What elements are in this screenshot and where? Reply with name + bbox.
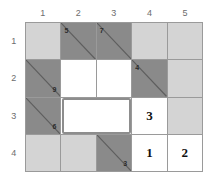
cell-r1-c3[interactable]: 7 xyxy=(97,23,132,60)
clue-value-r1-c2: 5 xyxy=(64,27,68,34)
row-header-2[interactable]: 2 xyxy=(3,60,25,98)
cell-r1-c1[interactable] xyxy=(26,23,61,60)
column-header-2[interactable]: 2 xyxy=(61,3,97,22)
cell-r2-c1[interactable]: 9 xyxy=(26,60,61,97)
cell-r4-c3[interactable]: 3 xyxy=(97,135,132,172)
cell-r3-c3[interactable] xyxy=(97,98,132,135)
puzzle-grid[interactable]: 579463312 xyxy=(25,22,203,172)
column-header-3[interactable]: 3 xyxy=(96,3,132,22)
clue-value-r1-c3: 7 xyxy=(100,27,104,34)
cell-r4-c5[interactable]: 2 xyxy=(168,135,203,172)
cell-r3-c2[interactable] xyxy=(61,98,96,135)
cell-r4-c4[interactable]: 1 xyxy=(132,135,167,172)
clue-value-r3-c1: 6 xyxy=(52,123,56,130)
puzzle-board: 12345 1234 579463312 xyxy=(0,0,211,186)
cell-r3-c4[interactable]: 3 xyxy=(132,98,167,135)
column-header-4[interactable]: 4 xyxy=(132,3,168,22)
cell-r4-c1[interactable] xyxy=(26,135,61,172)
clue-value-r2-c1: 9 xyxy=(52,86,56,93)
clue-value-r2-c4: 4 xyxy=(135,64,139,71)
column-header-row: 12345 xyxy=(25,3,203,22)
column-header-5[interactable]: 5 xyxy=(167,3,203,22)
cell-r3-c5[interactable] xyxy=(168,98,203,135)
cell-r1-c2[interactable]: 5 xyxy=(61,23,96,60)
cell-r1-c5[interactable] xyxy=(168,23,203,60)
answer-value-r3-c4: 3 xyxy=(132,98,166,134)
answer-value-r4-c4: 1 xyxy=(132,135,166,171)
cell-r1-c4[interactable] xyxy=(132,23,167,60)
column-header-1[interactable]: 1 xyxy=(25,3,61,22)
cell-r3-c1[interactable]: 6 xyxy=(26,98,61,135)
cell-r2-c3[interactable] xyxy=(97,60,132,97)
row-header-4[interactable]: 4 xyxy=(3,135,25,173)
row-header-3[interactable]: 3 xyxy=(3,97,25,135)
clue-value-r4-c3: 3 xyxy=(123,160,127,167)
cell-r4-c2[interactable] xyxy=(61,135,96,172)
cell-r2-c2[interactable] xyxy=(61,60,96,97)
answer-value-r4-c5: 2 xyxy=(168,135,202,171)
cell-r2-c4[interactable]: 4 xyxy=(132,60,167,97)
row-header-1[interactable]: 1 xyxy=(3,22,25,60)
cell-r2-c5[interactable] xyxy=(168,60,203,97)
row-header-column: 1234 xyxy=(3,22,25,172)
